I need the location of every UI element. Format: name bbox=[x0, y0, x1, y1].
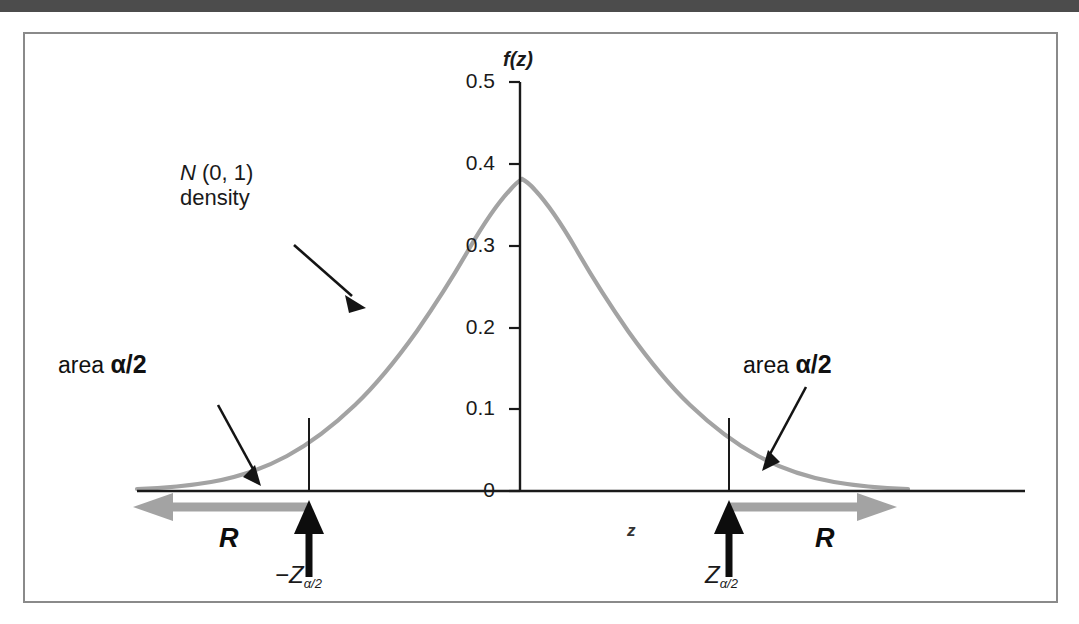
leader-arrow-density bbox=[294, 245, 366, 313]
critical-value-left-text: −Z bbox=[275, 561, 304, 588]
rejection-region-arrow-right bbox=[729, 493, 897, 521]
area-annotation-right-symbol: α/2 bbox=[795, 350, 831, 378]
critical-value-label-right: Zα/2 bbox=[705, 562, 738, 587]
rejection-region-label-right: R bbox=[815, 524, 835, 552]
leader-arrow-area-right bbox=[762, 387, 806, 471]
density-annotation-word: density bbox=[180, 185, 250, 210]
critical-value-right-text: Z bbox=[705, 561, 720, 588]
area-annotation-left-prefix: area bbox=[58, 352, 110, 378]
y-tick-label-0.2: 0.2 bbox=[431, 316, 495, 338]
density-annotation: N (0, 1) density bbox=[180, 161, 253, 210]
rejection-region-arrow-left bbox=[133, 493, 309, 521]
y-axis-title: f(z) bbox=[503, 48, 533, 71]
figure-frame: f(z) 0.5 0.4 0.3 0.2 0.1 0 N (0, 1) dens… bbox=[23, 32, 1058, 603]
area-annotation-right: area α/2 bbox=[743, 350, 832, 379]
critical-value-label-left: −Zα/2 bbox=[275, 562, 322, 587]
critical-value-left-sub: α/2 bbox=[304, 576, 322, 591]
y-axis-ticks bbox=[509, 82, 520, 491]
critical-value-right-sub: α/2 bbox=[720, 576, 738, 591]
x-axis-title: z bbox=[627, 522, 636, 540]
density-annotation-symbol: N bbox=[180, 160, 196, 185]
normal-distribution-plot bbox=[25, 34, 1056, 601]
y-tick-label-0.3: 0.3 bbox=[431, 234, 495, 256]
density-annotation-params: (0, 1) bbox=[196, 160, 253, 185]
area-annotation-left-symbol: α/2 bbox=[110, 350, 146, 378]
area-annotation-left: area α/2 bbox=[58, 350, 147, 379]
y-tick-label-0.4: 0.4 bbox=[431, 152, 495, 174]
top-dark-bar bbox=[0, 0, 1079, 12]
area-annotation-right-prefix: area bbox=[743, 352, 795, 378]
density-curve bbox=[137, 179, 908, 489]
rejection-region-label-left: R bbox=[219, 524, 239, 552]
y-tick-label-0.1: 0.1 bbox=[431, 397, 495, 419]
y-tick-label-0: 0 bbox=[431, 479, 495, 501]
y-tick-label-0.5: 0.5 bbox=[431, 70, 495, 92]
